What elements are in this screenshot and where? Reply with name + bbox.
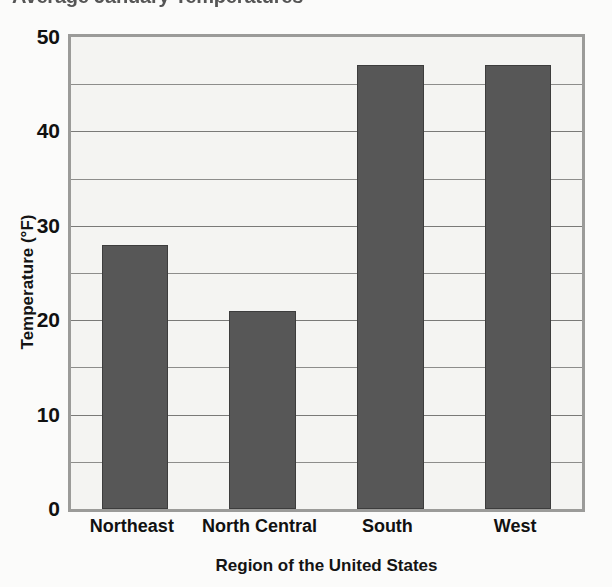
y-tick-label: 0 — [16, 498, 60, 519]
plot-area — [68, 34, 585, 512]
y-tick-label: 50 — [16, 26, 60, 47]
y-tick-label: 20 — [16, 309, 60, 330]
bar-north-central[interactable] — [229, 311, 295, 509]
x-tick-label: South — [324, 516, 452, 537]
x-tick-label: North Central — [196, 516, 324, 537]
plot-inner — [71, 37, 582, 509]
chart-figure: Average January Temperatures Temperature… — [0, 0, 612, 587]
x-tick-label: West — [451, 516, 579, 537]
bar-northeast[interactable] — [102, 245, 168, 509]
y-tick-label: 40 — [16, 120, 60, 141]
y-axis-tick-labels: 50403020100 — [8, 0, 60, 587]
x-tick-label: Northeast — [68, 516, 196, 537]
bar-south[interactable] — [357, 65, 423, 509]
y-tick-label: 30 — [16, 215, 60, 236]
x-axis-title: Region of the United States — [68, 556, 585, 576]
bar-west[interactable] — [485, 65, 551, 509]
x-axis-tick-labels: NortheastNorth CentralSouthWest — [68, 516, 585, 546]
y-tick-label: 10 — [16, 404, 60, 425]
